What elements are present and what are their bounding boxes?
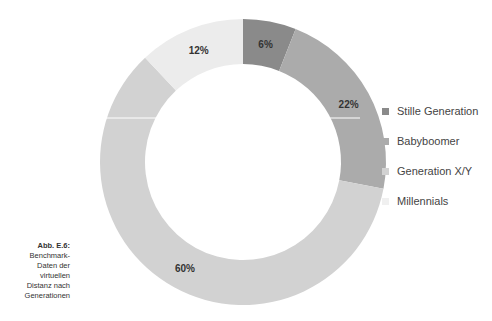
legend-label: Millennials — [397, 195, 448, 207]
legend-item-babyboomer: Babyboomer — [382, 126, 478, 156]
slice-label: 22% — [339, 99, 359, 110]
caption-line: Benchmark- — [0, 251, 70, 261]
slice-label: 6% — [258, 39, 273, 50]
caption-title: Abb. E.6: — [0, 241, 70, 251]
legend-swatch-icon — [382, 108, 389, 115]
caption-line: Daten der — [0, 261, 70, 271]
slice-label: 12% — [189, 45, 209, 56]
legend-item-millennials: Millennials — [382, 186, 478, 216]
slice-babyboomer — [279, 29, 386, 189]
legend-item-stille-generation: Stille Generation — [382, 96, 478, 126]
legend-swatch-icon — [382, 168, 389, 175]
legend-swatch-icon — [382, 138, 389, 145]
figure-caption: Abb. E.6: Benchmark- Daten der virtuelle… — [0, 241, 70, 301]
chart-legend: Stille Generation Babyboomer Generation … — [382, 96, 478, 216]
legend-swatch-icon — [382, 198, 389, 205]
caption-line: virtuellen — [0, 271, 70, 281]
legend-label: Generation X/Y — [397, 165, 472, 177]
slice-label: 60% — [175, 263, 195, 274]
legend-label: Stille Generation — [397, 105, 478, 117]
legend-label: Babyboomer — [397, 135, 459, 147]
caption-line: Distanz nach — [0, 281, 70, 291]
caption-line: Generationen — [0, 291, 70, 301]
legend-item-generation-xy: Generation X/Y — [382, 156, 478, 186]
